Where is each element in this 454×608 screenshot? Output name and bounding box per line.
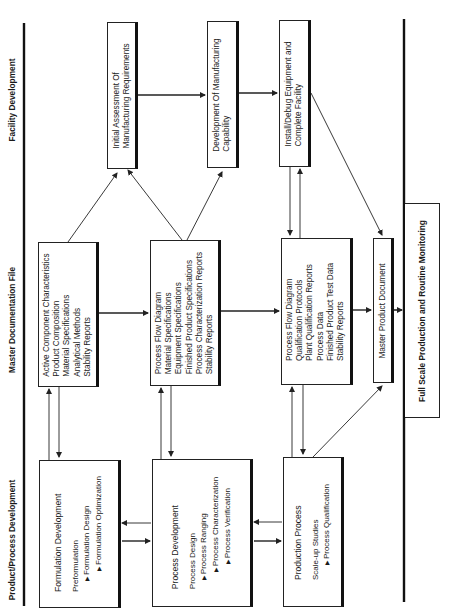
doc-item: Finished Product Test Data [326,262,336,360]
step-item: Scale-up Studies [310,484,321,580]
arrow-icon: ▶ [322,560,333,565]
doc-item: Equipment Specifications [174,252,184,374]
box-production-documents: Process Flow Diagram Qualification Proto… [281,238,353,385]
step-item: Process Verification [223,488,232,558]
box-title: Production Process [293,484,304,580]
step-item: Process Design [187,477,198,589]
step-item: Process Ranging [199,513,208,574]
doc-item: Process Characterization Reports [195,252,205,374]
arrow-icon: ▶ [94,566,105,571]
step-item: Formulation Optimization [94,476,103,565]
doc-item: Process Flow Diagram [285,262,295,360]
arrow-icon: ▶ [223,559,234,564]
box-master-product-document: Master Product Document [373,238,394,383]
doc-item: Active Component Characteristics [42,253,52,376]
diagram-canvas: Facility Development Master Documentatio… [0,0,454,608]
doc-item: Plant Qualification Reports [306,262,316,360]
step-item: Formulation Design [82,506,91,575]
box-text: Capability [222,38,232,151]
doc-item: Qualification Protocols [296,262,306,360]
doc-item: Finished Product Specifications [185,252,195,374]
box-development-capability: Development Of Manufacturing Capability [207,21,239,168]
lane-label-master-documentation: Master Documentation File [7,267,17,373]
box-initial-assessment: Initial Assessment Of Manufacturing Requ… [107,22,138,169]
box-text: Manufacturing Requirements [122,43,132,148]
step-item: Preformulation [70,476,81,592]
box-process-development: Process Development Process Design ▶Proc… [152,459,253,607]
box-text: Initial Assessment Of [111,43,121,148]
box-text: Development Of Manufacturing [212,38,222,151]
arrow-icon: ▶ [199,575,210,580]
box-production-process: Production Process Scale-up Studies ▶Pro… [283,457,344,607]
box-title: Process Development [170,477,181,589]
doc-item: Stability Reports [205,252,215,374]
doc-item: Process Flow Diagram [154,252,164,374]
arrow-icon: ▶ [82,576,93,581]
box-text: Install/Debug Equipment and [284,41,294,146]
doc-item: Material Specifications [62,253,72,376]
doc-item: Stability Reports [83,253,93,376]
doc-item: Material Specifications [164,252,174,374]
box-formulation-development: Formulation Development Preformulation ▶… [39,460,121,608]
lane-label-product-process: Product/Process Development [7,480,17,600]
doc-item: Analytical Methods [73,253,83,376]
doc-item: Product Composition [52,253,62,376]
box-title: Formulation Development [53,476,64,592]
box-formulation-documents: Active Component Characteristics Product… [38,242,99,387]
box-text: Complete Facility [294,41,304,146]
doc-item: Process Data [316,262,326,360]
box-install-debug: Install/Debug Equipment and Complete Fac… [279,20,311,167]
box-text: Full Scale Production and Routine Monito… [417,220,427,402]
box-full-scale-production: Full Scale Production and Routine Monito… [405,203,440,418]
box-process-documents: Process Flow Diagram Material Specificat… [150,240,221,386]
step-item: Process Characterization [211,477,220,566]
box-text: Master Product Document [377,263,387,358]
doc-item: Stability Reports [336,262,346,360]
lane-label-facility: Facility Development [7,59,17,142]
arrow-icon: ▶ [211,567,222,572]
step-item: Process Qualification [322,484,331,559]
